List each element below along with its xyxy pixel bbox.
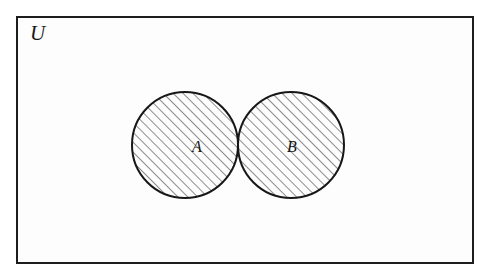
venn-diagram-figure: U A B xyxy=(0,0,496,277)
set-a-label: A xyxy=(191,138,202,155)
venn-diagram-svg: U A B xyxy=(0,0,496,277)
universe-label: U xyxy=(30,21,47,45)
set-b-label: B xyxy=(287,138,297,155)
